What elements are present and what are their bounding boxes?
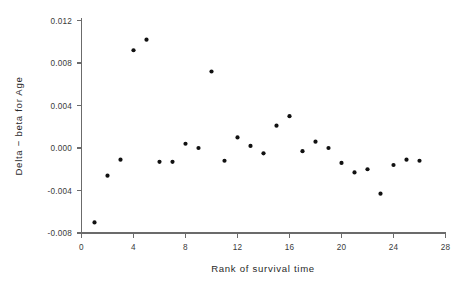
data-point (105, 174, 109, 178)
data-point (261, 151, 265, 155)
y-axis-ticks (77, 21, 82, 234)
x-tick-label: 28 (441, 243, 451, 252)
y-axis-title: Delta − beta for Age (13, 76, 24, 175)
data-point (170, 160, 174, 164)
y-tick-label: 0.000 (51, 144, 73, 153)
data-point (352, 170, 356, 174)
x-tick-label: 8 (183, 243, 188, 252)
x-tick-label: 16 (285, 243, 295, 252)
data-point-group (92, 38, 421, 225)
data-point (183, 142, 187, 146)
x-tick-label: 24 (389, 243, 399, 252)
y-tick-label: 0.008 (51, 59, 73, 68)
data-point (131, 48, 135, 52)
chart-canvas: 0.012 0.008 0.004 0.000 -0.004 -0.008 0 … (0, 0, 465, 285)
data-point (326, 146, 330, 150)
data-point (417, 159, 421, 163)
y-tick-label: -0.004 (48, 187, 73, 196)
data-point (209, 69, 213, 73)
x-tick-label: 20 (337, 243, 347, 252)
x-tick-label: 0 (79, 243, 84, 252)
y-tick-label: 0.004 (51, 102, 73, 111)
data-point (339, 161, 343, 165)
data-point (274, 124, 278, 128)
data-point (404, 158, 408, 162)
x-axis-title: Rank of survival time (211, 263, 315, 274)
data-point (92, 220, 96, 224)
y-tick-label: 0.012 (51, 17, 73, 26)
x-axis-tick-labels: 0 4 8 12 16 20 24 28 (79, 243, 450, 252)
data-point (378, 192, 382, 196)
data-point (287, 114, 291, 118)
data-point (300, 149, 304, 153)
data-point (196, 146, 200, 150)
x-tick-label: 4 (131, 243, 136, 252)
data-point (313, 140, 317, 144)
data-point (235, 135, 239, 139)
data-point (144, 38, 148, 42)
x-tick-label: 12 (233, 243, 243, 252)
data-point (391, 163, 395, 167)
x-axis-ticks (82, 233, 446, 238)
data-point (222, 159, 226, 163)
scatter-plot-figure: 0.012 0.008 0.004 0.000 -0.004 -0.008 0 … (0, 0, 465, 285)
data-point (365, 167, 369, 171)
data-point (248, 144, 252, 148)
data-point (118, 158, 122, 162)
y-tick-label: -0.008 (48, 229, 73, 238)
data-point (157, 160, 161, 164)
y-axis-tick-labels: 0.012 0.008 0.004 0.000 -0.004 -0.008 (48, 17, 73, 239)
